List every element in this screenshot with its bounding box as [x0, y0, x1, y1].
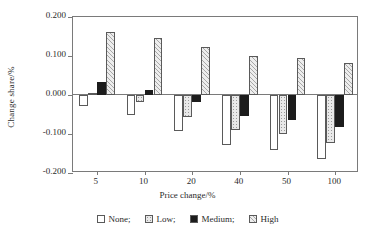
bar [288, 95, 297, 120]
legend-item[interactable]: Medium; [190, 214, 235, 224]
legend-item[interactable]: Low; [145, 214, 176, 224]
legend-label: None; [109, 214, 131, 224]
y-axis-title: Change share/% [6, 37, 16, 157]
x-tick-mark [192, 171, 193, 175]
y-tick-label: 0.000 [20, 88, 66, 98]
legend-label: Medium; [202, 214, 235, 224]
bar [97, 82, 106, 95]
bar [297, 58, 306, 95]
plot-area [72, 16, 358, 172]
y-tick-mark [68, 173, 73, 174]
y-tick-label: -0.200 [20, 166, 66, 176]
swatch-low-icon [145, 215, 153, 223]
x-tick-mark [145, 171, 146, 175]
chart-figure: Change share/% 0.2000.1000.000-0.100-0.2… [0, 0, 375, 235]
legend-label: Low; [157, 214, 176, 224]
bar [145, 90, 154, 95]
bar [335, 95, 344, 127]
swatch-none-icon [97, 215, 105, 223]
y-tick-mark [68, 56, 73, 57]
x-tick-label: 10 [124, 176, 164, 186]
y-tick-mark [68, 134, 73, 135]
bar [344, 63, 353, 95]
bar [240, 95, 249, 116]
x-tick-label: 100 [314, 176, 354, 186]
x-tick-label: 50 [267, 176, 307, 186]
x-axis-title: Price change/% [0, 190, 375, 200]
bar [192, 95, 201, 102]
x-tick-label: 40 [219, 176, 259, 186]
bar [279, 95, 288, 134]
bar [270, 95, 279, 150]
x-tick-mark [335, 171, 336, 175]
bar [183, 95, 192, 117]
chart-legend: None;Low;Medium;High [0, 214, 375, 224]
y-tick-mark [68, 17, 73, 18]
x-tick-label: 20 [171, 176, 211, 186]
bar [317, 95, 326, 159]
bar [79, 95, 88, 106]
swatch-high-icon [249, 215, 257, 223]
bar [326, 95, 335, 143]
x-tick-mark [97, 171, 98, 175]
y-tick-label: 0.100 [20, 49, 66, 59]
legend-item[interactable]: None; [97, 214, 131, 224]
y-tick-label: -0.100 [20, 127, 66, 137]
bar [201, 47, 210, 95]
y-tick-mark [68, 95, 73, 96]
legend-item[interactable]: High [249, 214, 279, 224]
x-tick-label: 5 [76, 176, 116, 186]
bar [136, 95, 145, 102]
y-tick-label: 0.200 [20, 10, 66, 20]
bar [127, 95, 136, 115]
zero-baseline [73, 94, 357, 95]
swatch-medium-icon [190, 215, 198, 223]
x-tick-mark [288, 171, 289, 175]
bar [88, 93, 97, 95]
bar [231, 95, 240, 130]
bar [154, 38, 163, 95]
bar [174, 95, 183, 131]
bar [106, 32, 115, 95]
legend-label: High [261, 214, 279, 224]
bar [222, 95, 231, 145]
bar [249, 56, 258, 95]
x-tick-mark [240, 171, 241, 175]
